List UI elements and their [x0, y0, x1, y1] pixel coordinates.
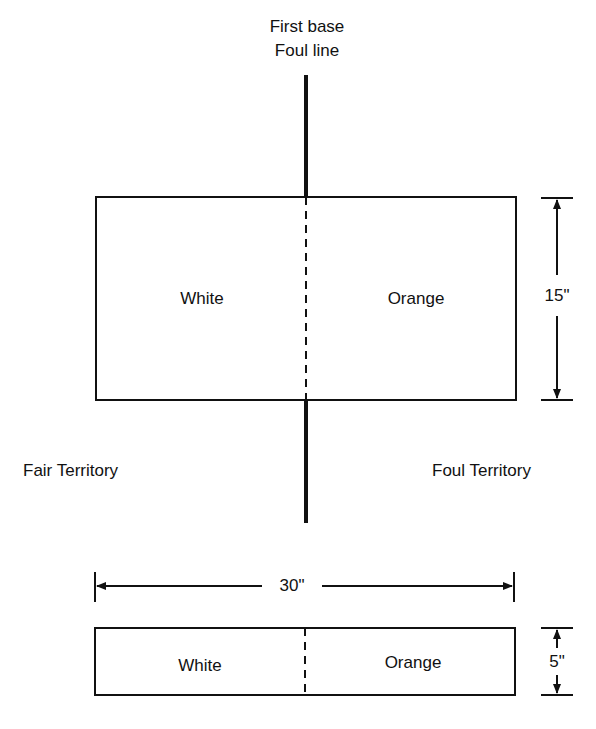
title-line2: Foul line — [275, 41, 339, 61]
small-bag-white-label: White — [178, 656, 221, 676]
small-bag-orange-label: Orange — [385, 653, 442, 673]
width-dim-label: 30" — [280, 576, 305, 596]
diagram-canvas — [0, 0, 596, 729]
large-bag-orange-label: Orange — [388, 289, 445, 309]
fair-territory-label: Fair Territory — [23, 461, 118, 481]
small-height-dim-label: 5" — [549, 652, 565, 672]
title-line1: First base — [270, 17, 345, 37]
foul-territory-label: Foul Territory — [432, 461, 531, 481]
large-bag-white-label: White — [180, 289, 223, 309]
height-dim-label: 15" — [545, 286, 570, 306]
